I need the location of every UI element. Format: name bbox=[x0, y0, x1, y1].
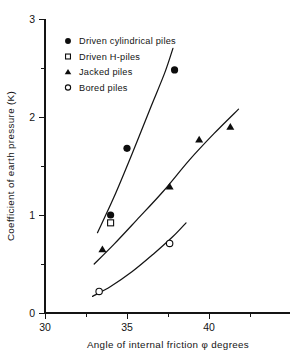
x-tick-label: 30 bbox=[39, 321, 51, 333]
legend-label: Driven H-piles bbox=[79, 52, 140, 62]
series-driven-h-piles bbox=[108, 220, 114, 226]
legend-label: Jacked piles bbox=[79, 67, 133, 77]
marker-filled-triangle bbox=[166, 183, 174, 190]
marker-open-circle-legend bbox=[65, 85, 70, 90]
y-tick-labels-group: 0123 bbox=[29, 13, 35, 319]
marker-filled-circle bbox=[123, 145, 130, 152]
marker-open-circle bbox=[96, 288, 102, 294]
y-axis-title: Coefficient of earth pressure (K) bbox=[5, 91, 16, 241]
marker-open-square-legend bbox=[66, 54, 71, 59]
legend-item-driven-cylindrical-piles: Driven cylindrical piles bbox=[65, 36, 176, 46]
marker-filled-circle-legend bbox=[65, 38, 71, 44]
marker-filled-triangle bbox=[98, 246, 106, 253]
marker-open-circle bbox=[166, 240, 172, 246]
bored-piles-trend bbox=[93, 223, 186, 297]
legend-item-bored-piles: Bored piles bbox=[65, 83, 127, 93]
x-ticks-group bbox=[45, 313, 250, 319]
marker-filled-triangle bbox=[226, 123, 234, 130]
marker-filled-circle bbox=[171, 66, 178, 73]
x-tick-label: 35 bbox=[121, 321, 133, 333]
legend-item-driven-h-piles: Driven H-piles bbox=[66, 52, 141, 62]
chart-canvas: 303540 0123 Driven cylindrical pilesDriv… bbox=[0, 0, 306, 359]
y-tick-label: 2 bbox=[29, 111, 35, 123]
marker-filled-triangle-legend bbox=[65, 69, 72, 74]
marker-filled-circle bbox=[107, 211, 114, 218]
legend-group: Driven cylindrical pilesDriven H-pilesJa… bbox=[65, 36, 176, 93]
marker-filled-triangle bbox=[195, 136, 203, 143]
y-tick-label: 0 bbox=[29, 307, 35, 319]
x-tick-labels-group: 303540 bbox=[39, 321, 215, 333]
y-tick-label: 1 bbox=[29, 209, 35, 221]
x-axis-title: Angle of internal friction φ degrees bbox=[87, 339, 249, 350]
chart-figure: 303540 0123 Driven cylindrical pilesDriv… bbox=[0, 0, 306, 359]
axes-group bbox=[45, 19, 290, 313]
legend-label: Driven cylindrical piles bbox=[79, 36, 176, 46]
x-tick-label: 40 bbox=[203, 321, 215, 333]
marker-open-square bbox=[108, 220, 114, 226]
legend-item-jacked-piles: Jacked piles bbox=[65, 67, 133, 77]
jacked-piles-trend bbox=[94, 109, 238, 264]
axis-frame bbox=[45, 19, 290, 313]
y-tick-label: 3 bbox=[29, 13, 35, 25]
series-bored-piles bbox=[96, 240, 173, 294]
data-points-group bbox=[96, 66, 234, 294]
legend-label: Bored piles bbox=[79, 83, 128, 93]
y-ticks-group bbox=[39, 19, 45, 313]
